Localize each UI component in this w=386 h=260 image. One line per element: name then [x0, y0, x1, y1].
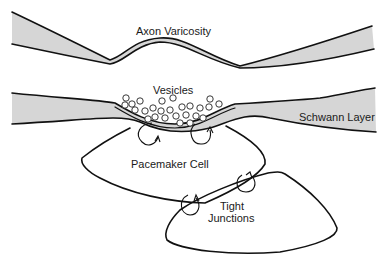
- upper-schwann-band: [12, 12, 374, 68]
- vesicles-label: Vesicles: [153, 84, 193, 96]
- tight-junctions-label-line1: Tight: [220, 200, 244, 212]
- tight-junctions-label-line2: Junctions: [208, 212, 254, 224]
- schwann-layer-label: Schwann Layer: [299, 111, 375, 123]
- axon-varicosity-label: Axon Varicosity: [136, 25, 211, 37]
- diagram-canvas: [0, 0, 386, 260]
- pacemaker-cell-label: Pacemaker Cell: [131, 158, 209, 170]
